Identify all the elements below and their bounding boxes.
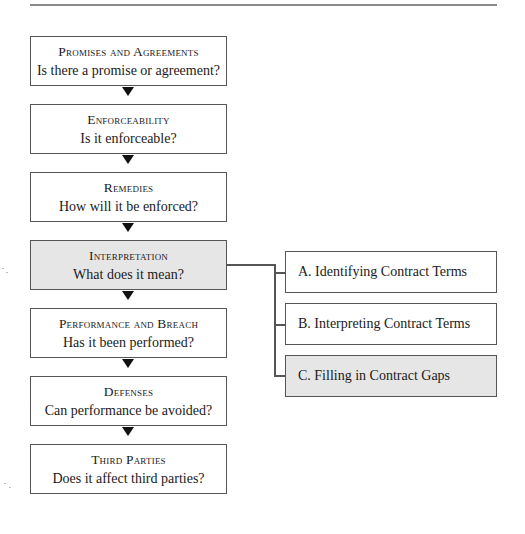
step-question: Is it enforceable? [80,129,176,148]
subtopic-label: B. Interpreting Contract Terms [298,315,470,333]
step-enforceability: Enforceability Is it enforceable? [30,104,227,154]
step-title: Defenses [104,383,153,401]
connector-vertical [274,264,276,376]
subtopic-label: A. Identifying Contract Terms [298,263,467,281]
connector-stub-c [274,375,285,377]
down-arrow-icon [122,155,134,164]
step-title: Performance and Breach [59,315,198,333]
header-rule [30,4,497,6]
step-question: What does it mean? [73,265,184,284]
step-title: Enforceability [87,111,170,129]
step-promises-and-agreements: Promises and Agreements Is there a promi… [30,36,227,86]
scan-speck [4,483,6,484]
subtopic-identifying-contract-terms: A. Identifying Contract Terms [285,251,497,293]
scan-speck [6,272,8,273]
subtopic-interpreting-contract-terms: B. Interpreting Contract Terms [285,303,497,345]
down-arrow-icon [122,359,134,368]
step-question: Does it affect third parties? [52,469,204,488]
step-title: Third Parties [91,451,166,469]
connector-stub-b [274,324,285,326]
down-arrow-icon [122,291,134,300]
step-remedies: Remedies How will it be enforced? [30,172,227,222]
scan-speck [9,487,11,488]
step-question: Can performance be avoided? [45,401,213,420]
subtopic-filling-in-contract-gaps: C. Filling in Contract Gaps [285,355,497,397]
step-question: Is there a promise or agreement? [37,61,220,80]
down-arrow-icon [122,87,134,96]
step-title: Promises and Agreements [58,43,198,61]
scan-speck [2,268,4,269]
connector-horizontal [227,264,275,266]
step-question: Has it been performed? [63,333,194,352]
step-interpretation: Interpretation What does it mean? [30,240,227,290]
step-title: Interpretation [89,247,168,265]
subtopic-label: C. Filling in Contract Gaps [298,367,450,385]
step-question: How will it be enforced? [59,197,198,216]
connector-stub-a [274,272,285,274]
step-defenses: Defenses Can performance be avoided? [30,376,227,426]
step-third-parties: Third Parties Does it affect third parti… [30,444,227,494]
step-title: Remedies [104,179,154,197]
step-performance-and-breach: Performance and Breach Has it been perfo… [30,308,227,358]
down-arrow-icon [122,223,134,232]
down-arrow-icon [122,427,134,436]
